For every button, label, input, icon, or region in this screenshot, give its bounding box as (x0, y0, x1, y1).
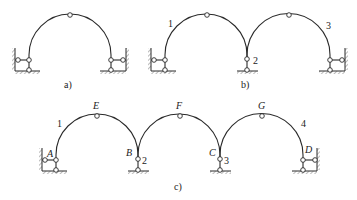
point-label-B: B (126, 147, 132, 158)
crown-hinge-b-1 (205, 13, 210, 18)
label-c-2: 2 (142, 155, 147, 166)
caption-c: c) (174, 181, 182, 193)
point-label-G: G (258, 100, 265, 111)
arch-c-2 (138, 114, 220, 159)
crown-hinge-b-2 (287, 13, 292, 18)
arch-c-3 (220, 113, 303, 160)
point-label-A: A (46, 148, 54, 159)
support-a-right (100, 48, 129, 74)
hinge-E (95, 114, 100, 119)
support-a-left (12, 48, 40, 74)
point-label-F: F (175, 100, 183, 111)
label-b-2: 2 (253, 55, 258, 66)
label-c-4: 4 (301, 118, 306, 129)
label-b-3: 3 (326, 20, 331, 31)
arch-b-1 (165, 14, 247, 60)
support-b-right (319, 48, 348, 74)
arch-b-2 (247, 13, 330, 60)
caption-b: b) (241, 79, 249, 91)
subfigure-a: a) (12, 13, 129, 91)
subfigure-c: 1 2 3 4 A B C D E F G c) (39, 100, 320, 193)
crown-hinge-a (68, 13, 73, 18)
structural-diagram: a) (0, 0, 357, 200)
support-b-left (148, 48, 176, 74)
point-label-C: C (209, 147, 216, 158)
label-c-1: 1 (57, 118, 62, 129)
subfigure-b: 1 2 3 b) (148, 13, 348, 91)
label-c-3: 3 (224, 155, 229, 166)
label-b-1: 1 (168, 18, 173, 29)
hinge-F (178, 114, 183, 119)
point-label-E: E (92, 100, 99, 111)
hinge-G (260, 114, 265, 119)
arch-a (29, 14, 111, 60)
caption-a: a) (64, 79, 72, 91)
point-label-D: D (304, 144, 313, 155)
